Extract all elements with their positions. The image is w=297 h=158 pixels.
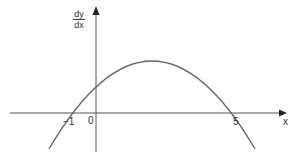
y-axis-label: dy dx — [72, 9, 86, 30]
curve — [49, 61, 255, 149]
y-axis-label-denominator: dx — [72, 20, 86, 30]
y-axis-arrow-icon — [93, 6, 100, 15]
root-label-left: −1 — [63, 117, 74, 127]
y-axis-label-numerator: dy — [72, 9, 86, 19]
root-label-right: 5 — [233, 117, 239, 127]
origin-label: 0 — [88, 116, 94, 126]
x-axis-label: x — [283, 117, 288, 127]
derivative-graph — [0, 0, 297, 158]
